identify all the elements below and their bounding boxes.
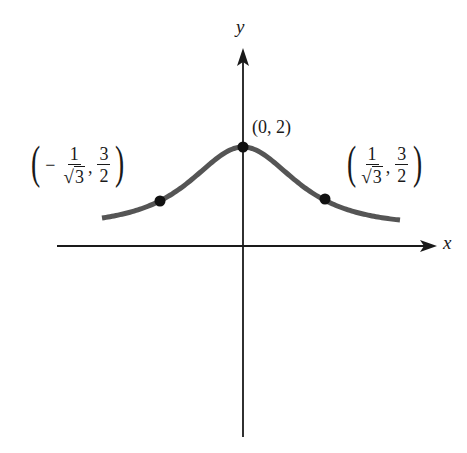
open-paren: ( (347, 140, 356, 186)
x-axis-label: x (443, 232, 451, 254)
radicand: 3 (372, 166, 383, 187)
comma: , (88, 158, 93, 176)
fraction-one-over-sqrt3: 1 √3 (361, 145, 382, 186)
point-right-inflection (320, 194, 331, 205)
fraction-three-halves: 3 2 (97, 145, 110, 185)
fraction-one-over-sqrt3: 1 √3 (63, 145, 84, 186)
right-point-label: ( 1 √3 , 3 2 ) (344, 144, 426, 186)
sqrt-icon: √ (63, 166, 73, 187)
numerator: 3 (395, 145, 408, 165)
comma: , (386, 158, 391, 176)
fraction-three-halves: 3 2 (395, 145, 408, 185)
numerator: 1 (366, 145, 379, 165)
sqrt-icon: √ (361, 166, 371, 187)
chart-canvas (0, 0, 467, 453)
y-axis-label: y (236, 16, 244, 38)
left-point-label: ( − 1 √3 , 3 2 ) (28, 144, 128, 186)
point-left-inflection (155, 196, 166, 207)
open-paren: ( (31, 140, 40, 186)
point-peak (238, 142, 249, 153)
denominator: √3 (361, 165, 382, 186)
numerator: 3 (97, 145, 110, 165)
numerator: 1 (68, 145, 81, 165)
close-paren: ) (115, 140, 124, 186)
denominator: 2 (99, 165, 108, 185)
peak-point-label: (0, 2) (252, 117, 291, 138)
denominator: √3 (63, 165, 84, 186)
denominator: 2 (397, 165, 406, 185)
radicand: 3 (74, 166, 85, 187)
minus-sign: − (45, 156, 55, 174)
close-paren: ) (413, 140, 422, 186)
